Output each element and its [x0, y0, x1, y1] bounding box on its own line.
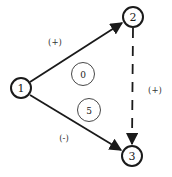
- node-1: 1: [11, 78, 31, 98]
- inner-marker-5-label: 5: [86, 106, 92, 116]
- node-3-label: 3: [129, 150, 136, 163]
- edge-1-to-3: [30, 95, 121, 150]
- inner-marker-0-label: 0: [80, 70, 86, 80]
- inner-marker-5: 5: [78, 99, 101, 122]
- edge-2-to-3-dashed: [132, 28, 133, 144]
- inner-marker-0: 0: [72, 63, 95, 86]
- node-3: 3: [122, 146, 142, 166]
- signed-graph-svg: 1 2 3 0 5 (+) (-) (+): [0, 0, 172, 177]
- edge-2-3-sign-label: (+): [148, 85, 162, 95]
- node-2: 2: [123, 7, 143, 27]
- edge-1-3-sign-label: (-): [59, 133, 69, 143]
- node-2-label: 2: [130, 11, 137, 24]
- diagram-canvas: 1 2 3 0 5 (+) (-) (+): [0, 0, 172, 177]
- edge-1-2-sign-label: (+): [48, 37, 62, 47]
- edge-1-to-2: [30, 23, 122, 82]
- node-1-label: 1: [18, 82, 25, 95]
